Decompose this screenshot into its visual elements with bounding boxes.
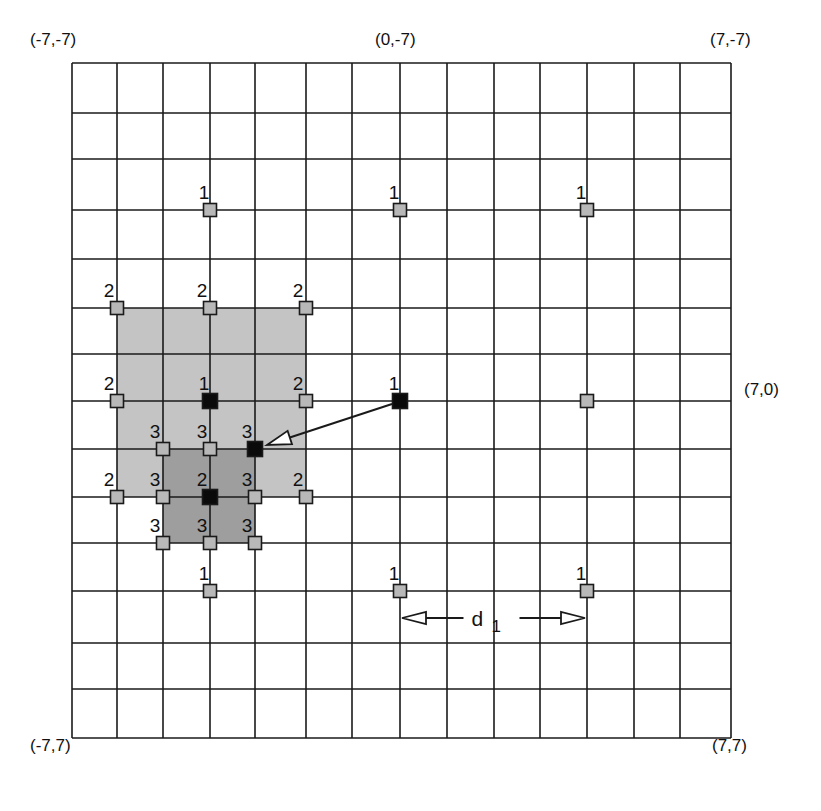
search-point-current-marker (203, 490, 218, 505)
step-number-label: 1 (576, 563, 587, 584)
coordinate-label-top-center: (0,-7) (375, 30, 416, 50)
search-point-marker (204, 302, 217, 315)
search-point-marker (394, 585, 407, 598)
search-point-marker (581, 395, 594, 408)
step-number-label: 1 (199, 563, 210, 584)
coordinate-label-bottom-right: (7,7) (712, 736, 747, 756)
search-point-marker (249, 491, 262, 504)
dimension-label-subscript: 1 (492, 617, 501, 636)
step-number-label: 3 (197, 515, 208, 536)
step-number-label: 2 (293, 280, 304, 301)
search-point-marker (300, 302, 313, 315)
step-number-label: 3 (197, 421, 208, 442)
search-point-marker (581, 585, 594, 598)
search-point-marker (111, 491, 124, 504)
coordinate-label-top-right: (7,-7) (710, 30, 751, 50)
step-number-label: 2 (104, 280, 115, 301)
search-point-marker (111, 395, 124, 408)
search-point-marker (249, 537, 262, 550)
step-number-label: 1 (389, 563, 400, 584)
search-point-marker (157, 537, 170, 550)
search-point-marker (300, 395, 313, 408)
search-point-marker (300, 491, 313, 504)
step-number-label: 2 (197, 469, 208, 490)
search-point-marker (581, 204, 594, 217)
coordinate-label-top-left: (-7,-7) (30, 30, 76, 50)
step-number-label: 2 (293, 469, 304, 490)
grid-diagram-canvas: d1 111111112222222233333333 (0, 0, 821, 811)
dimension-arrowhead-icon (561, 612, 585, 624)
search-point-marker (204, 443, 217, 456)
step-number-label: 2 (104, 373, 115, 394)
search-point-current-marker (393, 394, 408, 409)
coordinate-label-right-center: (7,0) (744, 380, 779, 400)
shaded-regions (117, 308, 306, 543)
step-number-label: 1 (576, 182, 587, 203)
step-number-label: 3 (242, 515, 253, 536)
search-point-marker (204, 537, 217, 550)
search-point-marker (111, 302, 124, 315)
step-number-label: 1 (389, 373, 400, 394)
step-number-label: 1 (389, 182, 400, 203)
step-number-label: 2 (293, 373, 304, 394)
step-number-label: 3 (150, 421, 161, 442)
search-point-marker (157, 491, 170, 504)
step-number-label: 3 (150, 469, 161, 490)
step-number-label: 3 (242, 421, 253, 442)
search-point-current-marker (248, 442, 263, 457)
search-point-marker (157, 443, 170, 456)
step-number-label: 2 (104, 469, 115, 490)
coordinate-label-bottom-left: (-7,7) (30, 736, 71, 756)
step-number-label: 2 (197, 280, 208, 301)
step-number-label: 1 (199, 373, 210, 394)
search-point-marker (204, 204, 217, 217)
search-point-current-marker (203, 394, 218, 409)
step-number-label: 3 (242, 469, 253, 490)
search-point-marker (394, 204, 407, 217)
step-number-label: 1 (199, 182, 210, 203)
step-number-label: 3 (150, 515, 161, 536)
dimension-arrowhead-icon (402, 612, 426, 624)
dimension-label: d (472, 607, 484, 630)
search-point-marker (204, 585, 217, 598)
